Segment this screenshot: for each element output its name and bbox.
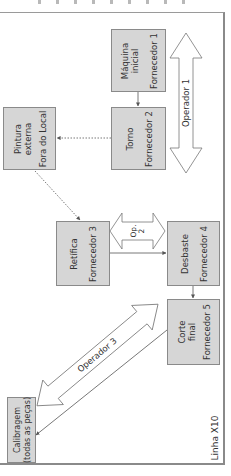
process-label: Calibragem <box>12 397 22 463</box>
process-label: Torno <box>124 111 134 167</box>
process-label: (todas as peças) <box>22 397 32 463</box>
process-box-calibragem: Calibragem (todas as peças) <box>7 397 36 463</box>
supplier-label: Fornecedor 5 <box>201 304 211 360</box>
process-label: externa <box>22 110 32 167</box>
process-box-retifica: Retífica Fornecedor 3 <box>56 221 110 286</box>
process-label: Retífica <box>69 226 79 282</box>
process-label: Corte <box>176 304 186 360</box>
supplier-label: Fornecedor 1 <box>148 33 158 89</box>
operator-2-label: Op. 2 <box>130 224 146 237</box>
line-title: Linha X10 <box>210 416 220 461</box>
process-label: Desbaste <box>179 226 189 282</box>
supplier-label: Fora do Local <box>37 110 47 167</box>
process-box-torno: Torno Fornecedor 2 <box>111 107 166 170</box>
process-box-maquina-inicial: Máquina inicial Fornecedor 1 <box>111 29 166 92</box>
operator-2-label-line2: 2 <box>138 224 146 237</box>
process-label: inicial <box>129 33 139 89</box>
supplier-label: Fornecedor 3 <box>88 226 98 282</box>
operator-1-label: Operador 1 <box>181 79 191 127</box>
process-label: final <box>186 304 196 360</box>
process-box-desbaste: Desbaste Fornecedor 4 <box>167 221 220 286</box>
arrow-pintura-to-retifica <box>35 171 80 220</box>
supplier-label: Fornecedor 2 <box>143 111 153 167</box>
process-label: Máquina <box>119 33 129 89</box>
supplier-label: Fornecedor 4 <box>198 226 208 282</box>
process-box-corte-final: Corte final Fornecedor 5 <box>167 299 220 365</box>
process-label: Pintura <box>12 110 22 167</box>
process-box-pintura-externa: Pintura externa Fora do Local <box>3 107 56 170</box>
